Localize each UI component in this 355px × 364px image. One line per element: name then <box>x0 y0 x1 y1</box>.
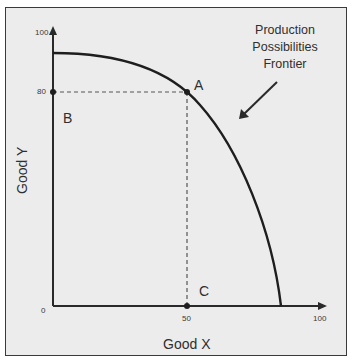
x-axis-arrow-icon <box>318 302 327 310</box>
annotation-line-3: Frontier <box>240 56 330 73</box>
x-axis-title: Good X <box>163 336 210 352</box>
ppf-curve <box>53 53 281 306</box>
tick-origin: 0 <box>41 306 45 315</box>
point-c-label: C <box>199 283 209 299</box>
tick-y-100: 100 <box>35 28 48 37</box>
annotation-arrow <box>244 82 277 114</box>
annotation-line-2: Possibilities <box>240 39 330 56</box>
tick-x-100: 100 <box>313 314 326 323</box>
annotation-line-1: Production <box>240 22 330 39</box>
point-c-marker <box>184 303 190 309</box>
point-a-marker <box>184 89 190 95</box>
tick-x-50: 50 <box>182 314 191 323</box>
point-b-label: B <box>63 110 72 126</box>
point-a-label: A <box>194 77 203 93</box>
point-b-marker <box>50 89 56 95</box>
tick-y-80: 80 <box>37 87 46 96</box>
ppf-annotation: Production Possibilities Frontier <box>240 22 330 73</box>
y-axis-title: Good Y <box>14 150 30 194</box>
y-axis-arrow-icon <box>49 26 57 35</box>
